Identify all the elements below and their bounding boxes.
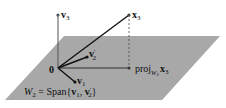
x3-label: x3	[132, 9, 141, 22]
v3-point	[56, 13, 59, 16]
origin-label: 0	[49, 64, 54, 75]
proj-point	[128, 67, 131, 70]
v3-label: v3	[61, 9, 70, 22]
orthogonal-projection-diagram: 0 v3 x3 v′2 v1 projW2x3 W2 = Span{v1, v′…	[0, 0, 226, 108]
